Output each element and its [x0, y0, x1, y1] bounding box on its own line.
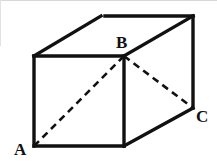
vertex-label-a: A	[14, 141, 26, 158]
vertex-label-c: C	[196, 108, 208, 125]
bottom-right-receding-edge	[124, 108, 193, 146]
cube-line-drawing	[0, 0, 217, 164]
top-right-receding-edge	[124, 16, 193, 56]
vertex-label-b: B	[116, 34, 127, 51]
diagonal-a-to-b	[34, 56, 124, 146]
top-left-receding-edge	[34, 16, 101, 56]
diagonal-b-to-c	[124, 56, 193, 108]
solid-edges-group	[34, 16, 193, 146]
cube-figure: A B C	[0, 0, 217, 164]
hidden-edges-group	[34, 56, 193, 146]
